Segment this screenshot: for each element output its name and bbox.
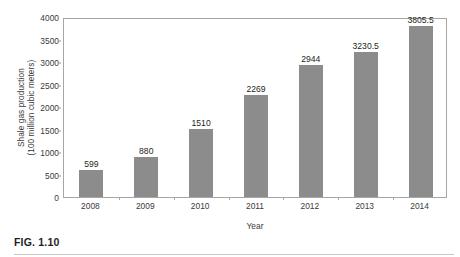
bar-chart: Shale gas production (100 million cubic …	[0, 0, 460, 232]
caption-divider	[14, 254, 454, 255]
bar-group: 3805.5	[393, 19, 448, 197]
y-axis-tick-label: 500	[45, 171, 59, 181]
y-axis-tick-mark	[58, 85, 61, 86]
x-axis-tick-labels: 2008200920102011201220132014	[63, 201, 447, 213]
bar	[134, 157, 158, 197]
x-axis-tick-mark	[393, 197, 394, 200]
bar-group: 2269	[229, 19, 284, 197]
bar-group: 3230.5	[338, 19, 393, 197]
y-axis-tick-mark	[58, 40, 61, 41]
bar-group: 2944	[283, 19, 338, 197]
x-axis-tick-mark	[283, 197, 284, 200]
bar	[409, 26, 433, 197]
x-axis-title: Year	[63, 221, 447, 231]
y-axis-tick-mark	[58, 153, 61, 154]
x-axis-tick-label: 2012	[301, 201, 320, 211]
bar-value-label: 2269	[246, 84, 265, 94]
bar-value-label: 3805.5	[407, 15, 433, 25]
bar-value-label: 1510	[192, 118, 211, 128]
y-axis-tick-mark	[58, 130, 61, 131]
y-axis-tick-label: 3000	[40, 58, 59, 68]
bar-group: 1510	[174, 19, 229, 197]
figure-container: Shale gas production (100 million cubic …	[0, 0, 460, 257]
bar	[354, 52, 378, 197]
bar	[299, 65, 323, 197]
y-axis-tick-mark	[58, 175, 61, 176]
x-axis-tick-label: 2009	[136, 201, 155, 211]
y-axis-tick-label: 0	[54, 193, 59, 203]
x-axis-tick-label: 2013	[355, 201, 374, 211]
y-axis-tick-label: 2000	[40, 103, 59, 113]
y-axis-tick-label: 2500	[40, 81, 59, 91]
x-axis-tick-label: 2008	[81, 201, 100, 211]
figure-caption-block: FIG. 1.10	[0, 234, 460, 257]
x-axis-tick-mark	[229, 197, 230, 200]
x-axis-tick-mark	[119, 197, 120, 200]
plot-area: 5998801510226929443230.53805.5	[63, 18, 447, 198]
y-axis-tick-labels: 05001000150020002500300035004000	[30, 13, 61, 198]
y-axis-tick-label: 3500	[40, 36, 59, 46]
bar-group: 599	[64, 19, 119, 197]
bar-group: 880	[119, 19, 174, 197]
bar-value-label: 599	[84, 159, 98, 169]
bar-value-label: 2944	[301, 54, 320, 64]
x-axis-tick-mark	[174, 197, 175, 200]
x-axis-tick-label: 2014	[410, 201, 429, 211]
y-axis-tick-mark	[58, 63, 61, 64]
y-axis-tick-label: 1000	[40, 148, 59, 158]
figure-caption: FIG. 1.10	[14, 236, 60, 249]
y-axis-tick-mark	[58, 108, 61, 109]
bar	[244, 95, 268, 197]
x-axis-tick-mark	[338, 197, 339, 200]
bar	[79, 170, 103, 197]
bar-value-label: 880	[139, 146, 153, 156]
bar	[189, 129, 213, 197]
bar-value-label: 3230.5	[353, 41, 379, 51]
x-axis-tick-label: 2010	[191, 201, 210, 211]
y-axis-tick-label: 1500	[40, 126, 59, 136]
bars-layer: 5998801510226929443230.53805.5	[64, 19, 446, 197]
y-axis-tick-label: 4000	[40, 13, 59, 23]
x-axis-tick-label: 2011	[246, 201, 264, 211]
